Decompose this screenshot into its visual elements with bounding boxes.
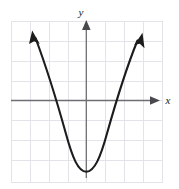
x-axis-label: x xyxy=(165,94,171,106)
graph-canvas: x y xyxy=(0,0,179,189)
parabola-graph-figure: x y xyxy=(0,0,179,189)
y-axis-label: y xyxy=(78,6,84,18)
grid-lines xyxy=(11,21,163,183)
